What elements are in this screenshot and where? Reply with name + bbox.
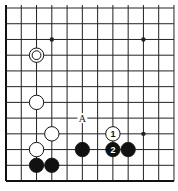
move-number: 1 — [110, 129, 115, 139]
star-point-icon — [141, 132, 145, 136]
white-stone — [29, 95, 43, 109]
white-stone — [29, 48, 43, 62]
stone-body — [29, 158, 43, 172]
stone-body — [121, 142, 135, 156]
point-label-a: A — [79, 113, 87, 124]
stone-body — [29, 48, 43, 62]
stone-body — [45, 127, 59, 141]
move-number: 2 — [110, 145, 115, 155]
black-stone — [75, 142, 89, 156]
star-point-icon — [50, 37, 54, 41]
stone-body — [29, 142, 43, 156]
black-stone — [45, 158, 59, 172]
black-stone-2: 2 — [106, 142, 120, 156]
stone-body — [75, 142, 89, 156]
black-stone — [29, 158, 43, 172]
board-labels: A — [77, 113, 87, 124]
white-stone — [29, 142, 43, 156]
go-board: A 12 — [0, 0, 178, 191]
stone-body — [45, 158, 59, 172]
stone-body — [29, 95, 43, 109]
white-stone-1: 1 — [106, 127, 120, 141]
black-stone — [121, 142, 135, 156]
white-stone — [45, 127, 59, 141]
star-point-icon — [141, 37, 145, 41]
